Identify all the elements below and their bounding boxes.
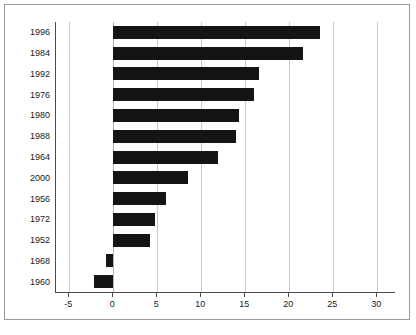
x-tick-label: 25 xyxy=(327,299,337,309)
x-tick-label: 5 xyxy=(154,299,159,309)
x-tick-label: 20 xyxy=(283,299,293,309)
y-tick-label: 1972 xyxy=(30,214,50,224)
bar xyxy=(113,213,155,226)
bar xyxy=(113,47,302,60)
x-tick-mark xyxy=(376,293,377,297)
y-tick-label: 1968 xyxy=(30,256,50,266)
x-tick-label: 30 xyxy=(371,299,381,309)
y-tick-label: 1956 xyxy=(30,194,50,204)
bar xyxy=(94,275,113,288)
y-tick-label: 1952 xyxy=(30,235,50,245)
bar xyxy=(113,26,320,39)
x-tick-mark xyxy=(288,293,289,297)
bar xyxy=(113,192,166,205)
y-axis: 1996198419921976198019881964200019561972… xyxy=(0,22,50,293)
y-tick-label: 1964 xyxy=(30,152,50,162)
bar xyxy=(113,109,239,122)
y-tick-label: 2000 xyxy=(30,173,50,183)
x-tick-mark xyxy=(200,293,201,297)
y-tick-label: 1980 xyxy=(30,110,50,120)
y-tick-label: 1984 xyxy=(30,48,50,58)
x-tick-mark xyxy=(156,293,157,297)
x-axis: -5051015202530 xyxy=(55,293,395,317)
y-tick-label: 1988 xyxy=(30,131,50,141)
y-tick-label: 1976 xyxy=(30,90,50,100)
bar-series xyxy=(56,22,395,292)
bar xyxy=(106,254,113,267)
x-tick-mark xyxy=(112,293,113,297)
bar xyxy=(113,88,254,101)
y-tick-label: 1960 xyxy=(30,277,50,287)
bar xyxy=(113,130,236,143)
y-tick-label: 1996 xyxy=(30,27,50,37)
x-tick-mark xyxy=(244,293,245,297)
x-tick-mark xyxy=(68,293,69,297)
x-tick-label: 0 xyxy=(110,299,115,309)
chart-figure: 1996198419921976198019881964200019561972… xyxy=(0,0,416,335)
plot-area xyxy=(55,22,395,293)
bar xyxy=(113,151,218,164)
x-tick-label: -5 xyxy=(64,299,72,309)
bar xyxy=(113,67,258,80)
x-tick-label: 15 xyxy=(239,299,249,309)
bar xyxy=(113,171,188,184)
x-tick-label: 10 xyxy=(195,299,205,309)
bar xyxy=(113,234,150,247)
x-tick-mark xyxy=(332,293,333,297)
y-tick-label: 1992 xyxy=(30,69,50,79)
